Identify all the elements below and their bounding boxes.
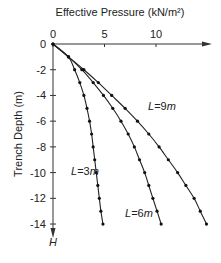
data-point bbox=[143, 171, 146, 174]
x-axis-title: Effective Pressure (kN/m²) bbox=[56, 6, 185, 18]
x-tick-label: 10 bbox=[150, 28, 162, 40]
data-point bbox=[85, 107, 88, 110]
data-point bbox=[167, 158, 170, 161]
data-point bbox=[110, 94, 113, 97]
data-point bbox=[98, 197, 101, 200]
data-point bbox=[96, 184, 99, 187]
data-point bbox=[90, 132, 93, 135]
data-point bbox=[147, 132, 150, 135]
data-point bbox=[119, 120, 122, 123]
data-point bbox=[97, 81, 100, 84]
data-point bbox=[138, 158, 141, 161]
data-point bbox=[51, 42, 54, 45]
data-point bbox=[151, 197, 154, 200]
data-point bbox=[101, 222, 104, 225]
data-point bbox=[147, 184, 150, 187]
series-group: L=3mL=6mL=9m bbox=[51, 42, 208, 225]
x-tick-label: 5 bbox=[101, 28, 107, 40]
data-point bbox=[102, 94, 105, 97]
y-tick-label: -2 bbox=[36, 64, 46, 76]
y-tick-label: 0 bbox=[40, 38, 46, 50]
data-point bbox=[193, 197, 196, 200]
data-point bbox=[93, 158, 96, 161]
data-point bbox=[99, 210, 102, 213]
y-axis-title: Trench Depth (m) bbox=[12, 91, 24, 177]
data-point bbox=[82, 68, 85, 71]
data-point bbox=[127, 132, 130, 135]
x-tick-label: 0 bbox=[50, 28, 56, 40]
y-tick-label: -10 bbox=[30, 167, 46, 179]
y-tick-label: -4 bbox=[36, 89, 46, 101]
series-line bbox=[53, 44, 161, 224]
series-label: L=9m bbox=[148, 100, 176, 112]
series-label: L=6m bbox=[125, 207, 153, 219]
data-point bbox=[88, 120, 91, 123]
data-point bbox=[184, 184, 187, 187]
data-point bbox=[199, 210, 202, 213]
data-point bbox=[82, 94, 85, 97]
data-point bbox=[157, 145, 160, 148]
data-point bbox=[73, 68, 76, 71]
data-point bbox=[111, 107, 114, 110]
y-axis-end-label: H bbox=[49, 236, 57, 248]
y-tick-label: -14 bbox=[30, 218, 46, 230]
data-point bbox=[136, 120, 139, 123]
y-tick-label: -8 bbox=[36, 141, 46, 153]
data-point bbox=[133, 145, 136, 148]
data-point bbox=[124, 107, 127, 110]
data-point bbox=[205, 222, 208, 225]
chart: Effective Pressure (kN/m²) 05100-2-4-6-8… bbox=[0, 0, 221, 263]
data-point bbox=[92, 81, 95, 84]
data-point bbox=[155, 210, 158, 213]
data-point bbox=[92, 145, 95, 148]
series-label: L=3m bbox=[71, 165, 99, 177]
data-point bbox=[78, 81, 81, 84]
data-point bbox=[67, 55, 70, 58]
x-axis-arrow-icon bbox=[202, 42, 212, 47]
data-point bbox=[160, 222, 163, 225]
axes: 05100-2-4-6-8-10-12-14 bbox=[30, 28, 212, 238]
data-point bbox=[176, 171, 179, 174]
y-tick-label: -12 bbox=[30, 192, 46, 204]
y-tick-label: -6 bbox=[36, 115, 46, 127]
series-line bbox=[53, 44, 103, 224]
